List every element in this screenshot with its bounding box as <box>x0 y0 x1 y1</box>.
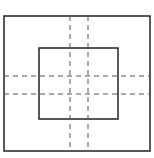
diagram-canvas <box>0 0 154 158</box>
vertical-dashed-guides <box>70 16 88 151</box>
horizontal-dashed-guides <box>4 76 150 94</box>
outer-rectangle <box>4 16 150 151</box>
inner-rectangle <box>39 48 118 119</box>
